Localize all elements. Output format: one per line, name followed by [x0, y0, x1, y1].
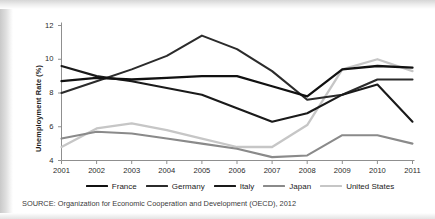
legend-swatch-icon: [86, 185, 108, 188]
x-tick-label: 2005: [187, 166, 217, 175]
legend-item-japan[interactable]: Japan: [263, 182, 311, 191]
y-tick-label: 4: [40, 156, 54, 165]
x-tick-label: 2008: [292, 166, 322, 175]
x-tick-label: 2011: [398, 166, 428, 175]
x-tick-label: 2003: [117, 166, 147, 175]
series-line-japan: [62, 132, 413, 157]
legend-label: France: [112, 182, 137, 191]
legend-item-france[interactable]: France: [86, 182, 137, 191]
legend-label: Italy: [240, 182, 255, 191]
x-tick-label: 2010: [362, 166, 392, 175]
y-tick-label: 10: [40, 54, 54, 63]
y-tick-label: 6: [40, 122, 54, 131]
y-tick-label: 12: [40, 21, 54, 30]
legend-item-italy[interactable]: Italy: [214, 182, 255, 191]
legend-swatch-icon: [320, 185, 342, 188]
y-tick-label: 8: [40, 88, 54, 97]
chart-figure: Unemployment Rate (%) 468101220012002200…: [0, 0, 435, 219]
source-note: SOURCE: Organization for Economic Cooper…: [22, 199, 296, 208]
x-tick-label: 2001: [47, 166, 77, 175]
x-tick-label: 2006: [222, 166, 252, 175]
legend-label: United States: [346, 182, 394, 191]
series-line-united-states: [62, 59, 413, 147]
legend-swatch-icon: [146, 185, 168, 188]
legend-swatch-icon: [214, 185, 236, 188]
x-tick-label: 2007: [257, 166, 287, 175]
legend-label: Germany: [172, 182, 205, 191]
x-tick-label: 2009: [327, 166, 357, 175]
x-tick-label: 2004: [152, 166, 182, 175]
chart-legend: FranceGermanyItalyJapanUnited States: [60, 179, 420, 193]
legend-label: Japan: [289, 182, 311, 191]
x-tick-label: 2002: [82, 166, 112, 175]
legend-swatch-icon: [263, 185, 285, 188]
legend-item-united-states[interactable]: United States: [320, 182, 394, 191]
legend-item-germany[interactable]: Germany: [146, 182, 205, 191]
series-line-france: [62, 66, 413, 96]
